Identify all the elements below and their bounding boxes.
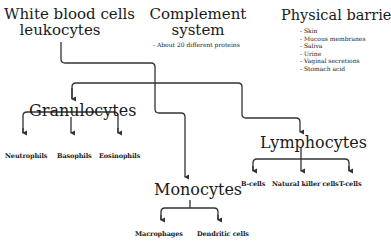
list-item: - Skin <box>300 27 391 35</box>
node-macrophages: Macrophages <box>135 230 183 238</box>
node-b-cells: B-cells <box>241 180 265 188</box>
node-white-blood-cells: White blood cells leukocytes <box>4 6 116 38</box>
node-complement-system: Complement system - About 20 different p… <box>145 6 251 49</box>
physical-barriers-label: Physical barriers <box>281 7 391 23</box>
node-lymphocytes: Lymphocytes <box>260 133 367 152</box>
white-blood-cells-label: White blood cells <box>4 6 116 22</box>
node-eosinophils: Eosinophils <box>99 152 140 160</box>
node-basophils: Basophils <box>57 152 92 160</box>
node-monocytes: Monocytes <box>154 180 242 199</box>
node-natural-killer-cells: Natural killer cells <box>272 180 339 188</box>
leukocytes-label: leukocytes <box>4 22 116 38</box>
list-item: - Vaginal secretions <box>300 57 391 65</box>
list-item: - Stomach acid <box>300 65 391 73</box>
physical-barriers-list: - Skin - Mucous membranes - Saliva - Uri… <box>300 27 391 73</box>
node-neutrophils: Neutrophils <box>5 152 47 160</box>
node-physical-barriers: Physical barriers - Skin - Mucous membra… <box>281 7 391 73</box>
node-t-cells: T-cells <box>339 180 361 188</box>
complement-note: - About 20 different proteins <box>145 41 251 49</box>
list-item: - Urine <box>300 50 391 58</box>
node-dendritic-cells: Dendritic cells <box>197 230 249 238</box>
node-granulocytes: Granulocytes <box>29 101 136 120</box>
list-item: - Mucous membranes <box>300 35 391 43</box>
list-item: - Saliva <box>300 42 391 50</box>
system-label: system <box>145 22 251 38</box>
complement-label: Complement <box>145 6 251 22</box>
